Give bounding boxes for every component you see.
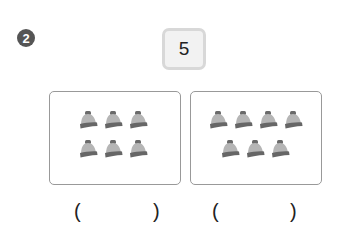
knit-hat-icon bbox=[270, 139, 290, 159]
knit-hat-icon bbox=[128, 110, 148, 130]
knit-hat-icon bbox=[78, 110, 98, 130]
knit-hat-icon bbox=[220, 139, 240, 159]
question-number-badge: 2 bbox=[17, 29, 35, 47]
knit-hat-icon bbox=[78, 139, 98, 159]
hat-row bbox=[78, 110, 148, 130]
answer-left-open-paren: ( bbox=[74, 200, 81, 223]
hat-group-panel-left bbox=[49, 91, 181, 185]
knit-hat-icon bbox=[103, 139, 123, 159]
answer-left-close-paren: ) bbox=[153, 200, 160, 223]
knit-hat-icon bbox=[233, 110, 253, 130]
knit-hat-icon bbox=[208, 110, 228, 130]
answer-right-close-paren: ) bbox=[290, 200, 297, 223]
hat-row bbox=[78, 139, 148, 159]
knit-hat-icon bbox=[128, 139, 148, 159]
answer-right-open-paren: ( bbox=[212, 200, 219, 223]
knit-hat-icon bbox=[245, 139, 265, 159]
knit-hat-icon bbox=[103, 110, 123, 130]
knit-hat-icon bbox=[258, 110, 278, 130]
hat-group-panel-right bbox=[190, 91, 322, 185]
hat-row bbox=[208, 110, 303, 130]
hat-row bbox=[220, 139, 290, 159]
knit-hat-icon bbox=[283, 110, 303, 130]
target-number-box: 5 bbox=[162, 28, 206, 70]
